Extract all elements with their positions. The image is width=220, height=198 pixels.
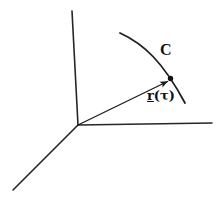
depth-axis: [13, 125, 78, 190]
vector-curve-diagram: C r(τ): [0, 0, 220, 198]
axes-group: [13, 11, 212, 190]
horizontal-axis: [78, 123, 212, 125]
position-vector-label: r(τ): [147, 89, 175, 102]
vertical-axis: [72, 11, 78, 125]
vector-symbol-r: r: [147, 88, 154, 103]
curve-label-c: C: [160, 42, 172, 58]
vector-argument-tau: (τ): [154, 88, 175, 103]
diagram-canvas: [0, 0, 220, 198]
point-on-curve-marker: [168, 76, 173, 81]
